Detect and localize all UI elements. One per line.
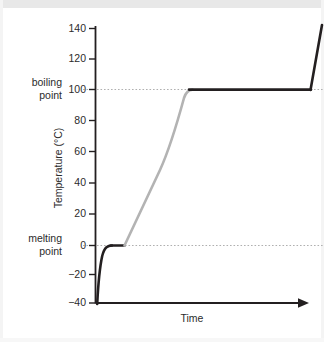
boiling-point-label-line1: boiling [32,76,63,88]
tick-label-100: 100 [68,83,86,95]
curve-solid-heating [97,246,112,305]
heating-curve-chart: 140 120 100 80 60 40 20 0 −20 −40 boilin… [0,0,324,342]
tick-label-minus-40: −40 [68,296,86,308]
curve-vapor-heating [311,25,323,90]
tick-label-20: 20 [74,207,86,219]
curve-liquid-heating [125,90,193,246]
boiling-point-label-line2: point [39,89,62,101]
chart-figure: 140 120 100 80 60 40 20 0 −20 −40 boilin… [0,0,324,342]
tick-label-40: 40 [74,176,86,188]
tick-label-60: 60 [74,145,86,157]
x-axis-arrow-icon [298,298,309,308]
tick-label-140: 140 [68,22,86,34]
y-axis-ticks [89,29,96,304]
x-axis-title: Time [181,312,204,324]
melting-point-label-line1: melting [28,232,62,244]
tick-label-80: 80 [74,114,86,126]
tick-label-120: 120 [68,52,86,64]
tick-label-minus-20: −20 [68,268,86,280]
tick-label-0: 0 [80,239,86,251]
melting-point-label-line2: point [39,245,62,257]
y-axis-title: Temperature (°C) [52,128,64,209]
